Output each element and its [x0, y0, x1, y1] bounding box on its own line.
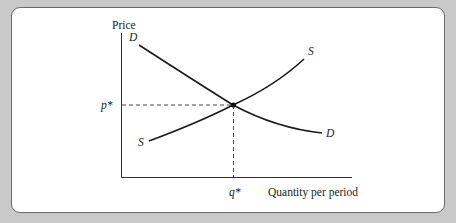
supply-label-bottom: S — [138, 136, 144, 148]
y-axis-label: Price — [112, 19, 136, 31]
equilibrium-point — [231, 102, 236, 107]
demand-label-bottom: D — [325, 127, 335, 139]
x-axis-label: Quantity per period — [268, 186, 358, 199]
supply-demand-diagram: Price Quantity per period D D S S p* q* — [0, 0, 456, 223]
q-star-label: q* — [229, 186, 241, 199]
supply-label-top: S — [308, 45, 314, 57]
p-star-label: p* — [100, 99, 113, 112]
demand-label-top: D — [128, 31, 138, 43]
demand-curve — [139, 45, 322, 133]
